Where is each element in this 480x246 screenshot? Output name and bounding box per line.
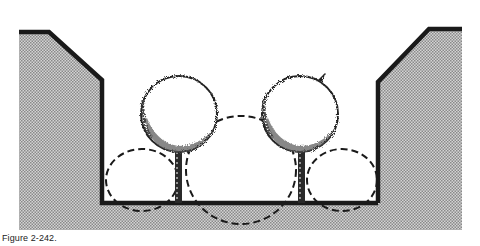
tree-canopy-right (262, 72, 338, 153)
planter-section-diagram (0, 0, 480, 246)
figure-caption: Figure 2-242. (2, 233, 57, 243)
tree-trunk-left (175, 150, 182, 203)
soil-mass (19, 29, 462, 230)
tree-canopy-left (141, 76, 217, 153)
tree-left (141, 76, 217, 203)
left-embankment (19, 29, 462, 230)
tree-right (262, 72, 338, 203)
tree-trunk-right (298, 150, 305, 203)
